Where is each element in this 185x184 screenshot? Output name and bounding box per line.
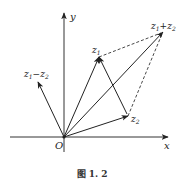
- dashed-edge-z1-to-sum: [99, 33, 161, 57]
- figure-caption: 图 1. 2: [77, 169, 108, 179]
- x-axis-label: x: [164, 140, 170, 151]
- label-z1: z1: [91, 45, 101, 56]
- label-z2: z2: [130, 114, 140, 125]
- complex-vector-diagram: y x O z1 z2 z1+z2 z1−z2 图 1. 2: [0, 0, 185, 184]
- origin-point: [62, 135, 65, 138]
- dashed-edge-z2-to-sum: [128, 34, 162, 116]
- label-z1-minus-z2: z1−z2: [23, 69, 49, 80]
- vector-z1: [64, 57, 99, 137]
- vector-z1-minus-z2: [38, 82, 64, 137]
- y-axis-label: y: [69, 11, 76, 22]
- origin-label: O: [55, 140, 63, 151]
- label-z1-plus-z2: z1+z2: [150, 21, 176, 32]
- vector-z2-to-z1: [99, 57, 127, 114]
